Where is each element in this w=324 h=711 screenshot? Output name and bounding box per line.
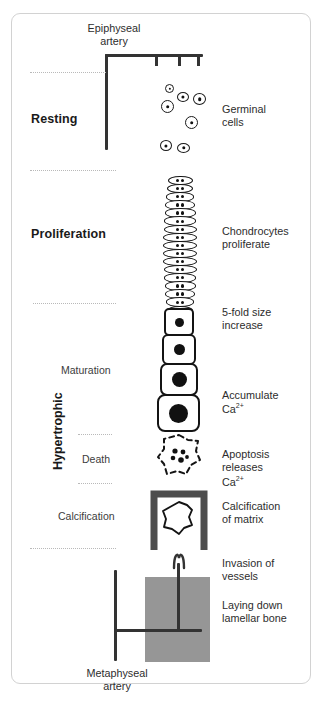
nucleus: [198, 97, 202, 101]
hypertrophic-cell-2: [162, 334, 196, 365]
nucleus: [176, 284, 179, 287]
epiphyseal-artery-label: Epiphyseal artery: [62, 22, 166, 48]
metaphyseal-artery-line: [114, 570, 117, 661]
nucleus: [175, 318, 184, 327]
nucleus: [181, 187, 184, 190]
nucleus: [181, 244, 184, 247]
nucleus: [176, 203, 179, 206]
nucleus: [176, 292, 179, 295]
annotation-germinal-cells: Germinal cells: [222, 103, 312, 129]
annotation-laying-lamellar: Laying down lamellar bone: [222, 599, 318, 625]
zone-label-death: Death: [82, 453, 110, 466]
nucleus: [176, 236, 179, 239]
nucleus: [176, 244, 179, 247]
zone-divider-resting-top: [30, 72, 106, 73]
fragment: [181, 450, 186, 455]
apoptotic-cell: [155, 432, 203, 478]
annotation-five-fold: 5-fold size increase: [222, 306, 318, 332]
zone-label-maturation: Maturation: [61, 364, 111, 377]
nucleus: [181, 276, 184, 279]
apoptotic-membrane: [158, 435, 200, 474]
epiphyseal-plate-bar: [105, 54, 203, 57]
nucleus: [181, 252, 184, 255]
ruler-tick-1: [155, 54, 158, 66]
germinal-cell: [165, 84, 174, 93]
fragment: [172, 448, 177, 453]
nucleus: [169, 404, 188, 423]
zone-divider-resting-bot: [30, 170, 116, 171]
calcification-matrix-shape: [148, 488, 210, 552]
germinal-cell: [160, 140, 172, 151]
nucleus: [168, 87, 170, 89]
fragment: [178, 457, 184, 463]
germinal-cell: [177, 143, 190, 153]
nucleus: [176, 268, 179, 271]
apoptotic-cell-svg: [155, 432, 203, 478]
germinal-cell: [161, 100, 174, 113]
germinal-cell: [193, 93, 206, 105]
nucleus: [176, 228, 179, 231]
nucleus: [181, 179, 184, 182]
nucleus: [176, 195, 179, 198]
nucleus: [176, 260, 179, 263]
nucleus: [176, 187, 179, 190]
zone-label-proliferation: Proliferation: [31, 227, 106, 242]
annotation-apoptosis: Apoptosis releases Ca2+: [222, 435, 318, 488]
matrix-blob: [163, 502, 192, 534]
epiphyseal-artery-line: [105, 54, 108, 150]
calcification-svg: [148, 488, 210, 552]
nucleus: [172, 372, 187, 387]
zone-label-calcification: Calcification: [58, 510, 115, 523]
hypertrophic-cell-4: [157, 394, 200, 432]
nucleus: [164, 144, 167, 147]
nucleus: [182, 146, 185, 149]
nucleus: [176, 220, 179, 223]
annotation-invasion-vessels: Invasion of vessels: [222, 557, 318, 583]
nucleus: [181, 292, 184, 295]
diagram-canvas: Epiphyseal artery Resting Proliferation …: [0, 0, 324, 711]
nucleus: [166, 105, 170, 109]
nucleus: [181, 260, 184, 263]
nucleus: [176, 276, 179, 279]
nucleus: [181, 284, 184, 287]
annotation-accumulate-ca: Accumulate Ca2+: [222, 376, 318, 416]
annotation-accumulate-ca-superscript: 2+: [236, 402, 244, 409]
metaphyseal-branch-bar: [114, 629, 202, 632]
nucleus: [190, 121, 194, 125]
nucleus: [174, 344, 185, 355]
vessel-descending-line: [177, 563, 180, 631]
zone-divider-prolif-bot: [33, 303, 116, 304]
germinal-cell: [185, 116, 198, 129]
nucleus: [181, 203, 184, 206]
zone-divider-death-bot: [78, 483, 112, 484]
hypertrophic-cell-3: [160, 363, 198, 396]
hypertrophic-cell-1: [164, 308, 194, 336]
nucleus: [176, 252, 179, 255]
ruler-tick-3: [197, 54, 200, 66]
zone-label-resting: Resting: [31, 112, 78, 127]
nucleus: [181, 236, 184, 239]
nucleus: [176, 211, 179, 214]
annotation-calcification-matrix: Calcification of matrix: [222, 500, 318, 526]
germinal-cell: [177, 92, 189, 102]
proliferation-stack: [163, 176, 197, 323]
annotation-apoptosis-superscript: 2+: [236, 475, 244, 482]
nucleus: [181, 195, 184, 198]
nucleus: [181, 95, 184, 98]
zone-label-hypertrophic: Hypertrophic: [51, 392, 65, 470]
metaphyseal-artery-label: Metaphyseal artery: [66, 667, 168, 693]
fragment: [185, 455, 189, 459]
nucleus: [176, 301, 179, 304]
nucleus: [181, 268, 184, 271]
nucleus: [176, 179, 179, 182]
annotation-apoptosis-text: Apoptosis releases Ca: [222, 448, 269, 487]
nucleus: [181, 211, 184, 214]
fragment: [171, 456, 176, 461]
annotation-chondrocytes: Chondrocytes proliferate: [222, 225, 318, 251]
nucleus: [181, 228, 184, 231]
annotation-accumulate-ca-text: Accumulate Ca: [222, 389, 278, 415]
ruler-tick-2: [178, 54, 181, 66]
nucleus: [181, 301, 184, 304]
zone-divider-calc-bot: [30, 548, 116, 549]
zone-divider-death-top: [78, 434, 112, 435]
